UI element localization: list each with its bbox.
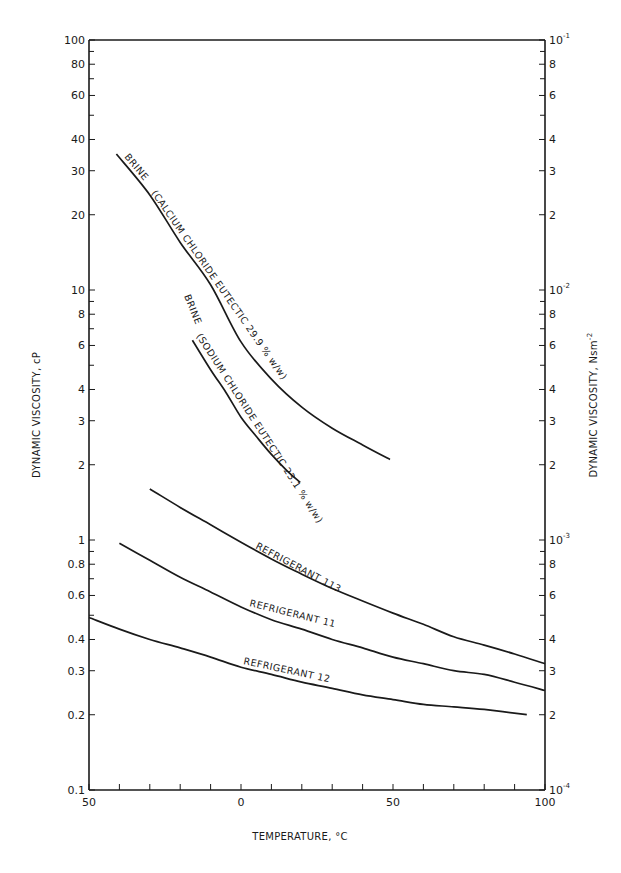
right-tick-label: 8 <box>549 558 556 571</box>
right-tick-label: 3 <box>549 665 556 678</box>
right-tick-label: 3 <box>549 415 556 428</box>
right-tick-label: 6 <box>549 89 556 102</box>
left-tick-label: 40 <box>71 133 85 146</box>
right-tick-label: 3 <box>549 165 556 178</box>
right-tick-label: 4 <box>549 383 556 396</box>
x-tick-label: 100 <box>535 796 556 809</box>
left-tick-label: 60 <box>71 89 85 102</box>
left-tick-label: 4 <box>78 383 85 396</box>
left-tick-label: 0.8 <box>68 558 86 571</box>
left-tick-label: 20 <box>71 209 85 222</box>
left-tick-label: 0.4 <box>68 633 86 646</box>
left-tick-label: 0.3 <box>68 665 86 678</box>
right-tick-label: 8 <box>549 308 556 321</box>
left-tick-label: 8 <box>78 308 85 321</box>
right-tick-label: 10-4 <box>549 782 571 797</box>
label-nacl-brine: BRINE <box>182 293 204 326</box>
left-tick-label: 80 <box>71 58 85 71</box>
right-tick-label: 10-1 <box>549 32 570 47</box>
label-r12: REFRIGERANT 12 <box>243 655 332 684</box>
svg-text:DYNAMIC VISCOSITY, Nsm-2: DYNAMIC VISCOSITY, Nsm-2 <box>586 333 599 478</box>
left-tick-label: 2 <box>78 459 85 472</box>
x-axis: 50050100 <box>82 784 556 809</box>
left-tick-label: 0.2 <box>68 709 86 722</box>
left-y-axis-title: DYNAMIC VISCOSITY, cP <box>31 352 42 478</box>
right-tick-label: 8 <box>549 58 556 71</box>
right-tick-label: 2 <box>549 459 556 472</box>
left-tick-label: 3 <box>78 415 85 428</box>
right-tick-label: 6 <box>549 589 556 602</box>
right-tick-label: 10-2 <box>549 282 570 297</box>
viscosity-chart: 1008060403020108643210.80.60.40.30.20.1 … <box>0 0 621 873</box>
right-tick-label: 4 <box>549 133 556 146</box>
left-tick-label: 30 <box>71 165 85 178</box>
right-tick-label: 10-3 <box>549 532 570 547</box>
left-tick-label: 6 <box>78 339 85 352</box>
right-y-axis: 10-18643210-28643210-38643210-4 <box>539 32 571 797</box>
x-tick-label: 50 <box>386 796 400 809</box>
right-tick-label: 2 <box>549 209 556 222</box>
left-tick-label: 0.6 <box>68 589 86 602</box>
left-tick-label: 1 <box>78 534 85 547</box>
left-tick-label: 10 <box>71 284 85 297</box>
x-axis-title: TEMPERATURE, °C <box>251 831 348 842</box>
right-tick-label: 4 <box>549 633 556 646</box>
curves <box>89 154 545 715</box>
label-r113: REFRIGERANT 113 <box>254 540 343 594</box>
curve-refrigerant-113 <box>150 489 545 664</box>
left-tick-label: 100 <box>64 34 85 47</box>
right-tick-label: 6 <box>549 339 556 352</box>
label-nacl-desc: (SODIUM CHLORIDE EUTECTIC 23.1 % w/w) <box>194 331 325 525</box>
x-tick-label: 0 <box>238 796 245 809</box>
label-r11: REFRIGERANT 11 <box>249 597 338 629</box>
curve-refrigerant-12 <box>89 618 527 715</box>
right-y-axis-title: DYNAMIC VISCOSITY, Nsm-2 <box>586 333 599 478</box>
right-tick-label: 2 <box>549 709 556 722</box>
label-cacl-desc: (CALCIUM CHLORIDE EUTECTIC 29.9 % w/w) <box>149 188 289 382</box>
x-tick-label: 50 <box>82 796 96 809</box>
